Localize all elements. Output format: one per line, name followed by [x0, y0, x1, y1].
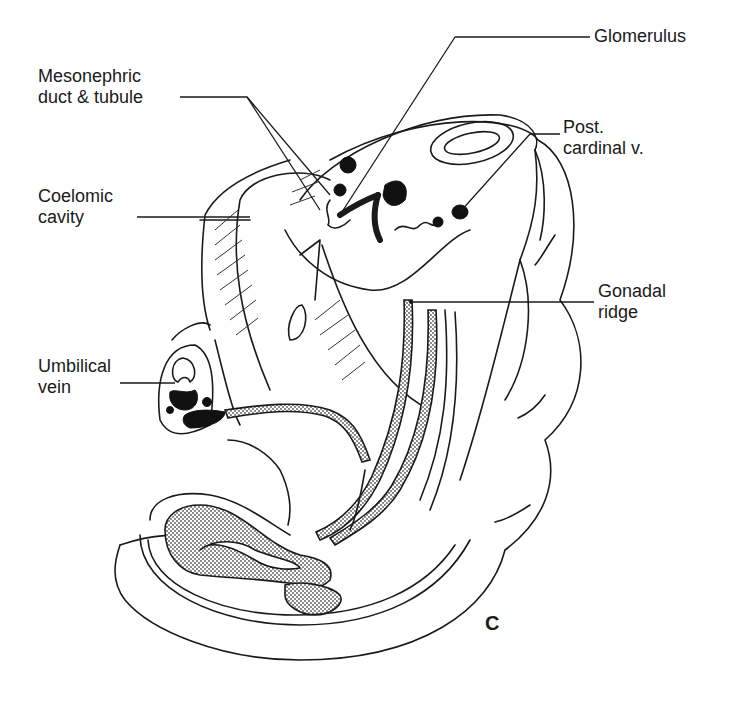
label-mesonephric-duct: Mesonephric duct & tubule: [38, 66, 143, 108]
label-umbilical-vein: Umbilical vein: [38, 356, 111, 398]
gut-tube: [165, 300, 437, 615]
mesonephros-region: [285, 157, 470, 290]
label-gonadal-line2: ridge: [598, 302, 666, 323]
label-post-cardinal-line2: cardinal v.: [563, 138, 644, 159]
panel-letter: C: [485, 612, 499, 635]
label-mesonephric-line1: Mesonephric: [38, 66, 143, 87]
label-umbilical-line2: vein: [38, 377, 111, 398]
label-glomerulus-line1: Glomerulus: [594, 26, 686, 47]
label-coelomic-cavity: Coelomic cavity: [38, 186, 113, 228]
label-coelomic-line2: cavity: [38, 207, 113, 228]
label-umbilical-line1: Umbilical: [38, 356, 111, 377]
neural-tube-block: [300, 115, 544, 400]
label-post-cardinal-line1: Post.: [563, 117, 644, 138]
label-mesonephric-line2: duct & tubule: [38, 87, 143, 108]
label-coelomic-line1: Coelomic: [38, 186, 113, 207]
embryo-cross-section-diagram: Glomerulus Mesonephric duct & tubule Pos…: [0, 0, 745, 713]
label-gonadal-ridge: Gonadal ridge: [598, 281, 666, 323]
label-glomerulus: Glomerulus: [594, 26, 686, 47]
label-gonadal-line1: Gonadal: [598, 281, 666, 302]
label-post-cardinal-vein: Post. cardinal v.: [563, 117, 644, 159]
